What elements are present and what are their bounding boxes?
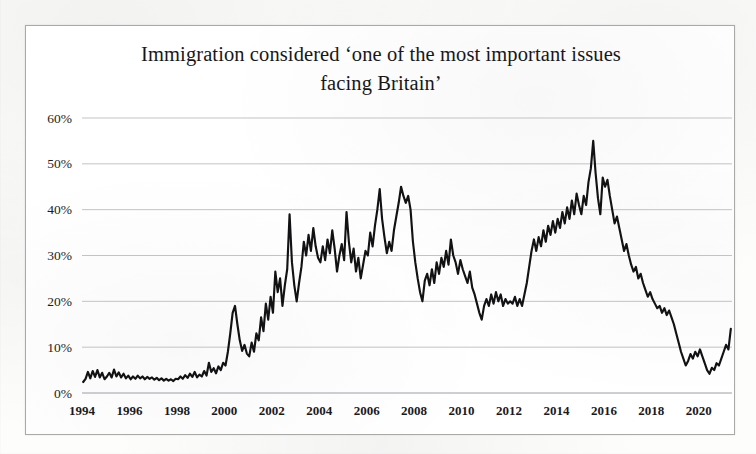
x-tick-label: 2002 [259,403,285,418]
x-tick-label: 1998 [164,403,191,418]
gridlines-group [82,118,732,393]
x-axis-tick-labels: 1994199619982000200220042006200820102012… [69,403,712,418]
y-tick-label: 60% [47,111,72,126]
x-tick-label: 2000 [211,403,237,418]
series-line [83,141,731,382]
x-tick-label: 2016 [591,403,618,418]
y-tick-label: 40% [47,202,72,217]
x-tick-label: 2004 [306,403,333,418]
y-tick-label: 50% [47,156,72,171]
y-tick-label: 30% [47,248,72,263]
x-tick-label: 1994 [69,403,96,418]
plot-area-wrapper: 0%10%20%30%40%50%60% 1994199619982000200… [26,26,736,436]
x-tick-label: 2012 [496,403,522,418]
chart-card: Immigration considered ‘one of the most … [25,25,735,435]
x-tick-label: 2006 [354,403,381,418]
x-tick-label: 2018 [638,403,665,418]
x-tick-label: 2014 [543,403,570,418]
y-tick-label: 20% [47,294,72,309]
x-tick-label: 2010 [449,403,475,418]
x-tick-label: 2008 [401,403,428,418]
x-tick-label: 2020 [686,403,712,418]
y-tick-label: 10% [47,340,72,355]
data-series-group [83,141,731,382]
x-tick-label: 1996 [116,403,143,418]
y-tick-label: 0% [54,386,72,401]
line-chart-plot: 0%10%20%30%40%50%60% 1994199619982000200… [26,26,736,436]
y-axis-tick-labels: 0%10%20%30%40%50%60% [47,111,72,401]
